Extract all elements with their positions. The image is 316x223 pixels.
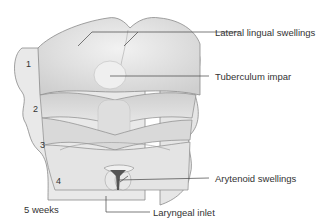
embryonic-tongue-diagram: 1 2 3 4 Lateral lingual swellings Tuberc… xyxy=(0,0,316,223)
arch-number-2: 2 xyxy=(33,105,38,114)
arch-number-1: 1 xyxy=(26,60,31,69)
arch-number-3: 3 xyxy=(40,141,45,150)
arch-number-4: 4 xyxy=(56,177,61,186)
label-arytenoid-swellings: Arytenoid swellings xyxy=(215,174,296,184)
label-tuberculum-impar: Tuberculum impar xyxy=(215,72,291,82)
label-lateral-lingual-swellings: Lateral lingual swellings xyxy=(215,28,315,38)
figure-caption: 5 weeks xyxy=(24,205,59,215)
label-laryngeal-inlet: Laryngeal inlet xyxy=(153,208,215,218)
